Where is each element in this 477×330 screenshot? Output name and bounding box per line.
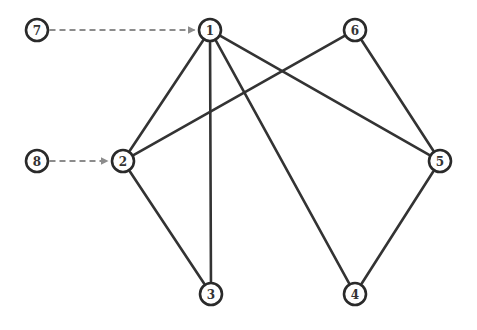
- node-1: 1: [199, 19, 221, 41]
- edges-layer: [50, 30, 434, 284]
- edge-1-2: [130, 40, 203, 150]
- edge-6-5: [362, 40, 433, 150]
- node-label: 5: [436, 155, 444, 169]
- edge-1-3: [210, 42, 211, 281]
- edge-5-4: [362, 172, 434, 284]
- edge-2-3: [130, 171, 204, 283]
- node-6: 6: [344, 19, 366, 41]
- node-4: 4: [344, 283, 366, 305]
- node-label: 2: [119, 155, 127, 169]
- edge-1-4: [216, 41, 349, 283]
- node-8: 8: [26, 150, 48, 172]
- node-label: 4: [351, 288, 359, 302]
- node-7: 7: [26, 19, 48, 41]
- node-label: 6: [351, 24, 359, 38]
- node-label: 8: [33, 155, 41, 169]
- graph-diagram: 12345678: [0, 0, 477, 330]
- graph-canvas: 12345678: [0, 0, 477, 330]
- node-label: 7: [33, 24, 41, 38]
- node-3: 3: [200, 283, 222, 305]
- node-label: 1: [206, 24, 214, 38]
- node-label: 3: [207, 288, 215, 302]
- node-2: 2: [112, 150, 134, 172]
- node-5: 5: [429, 150, 451, 172]
